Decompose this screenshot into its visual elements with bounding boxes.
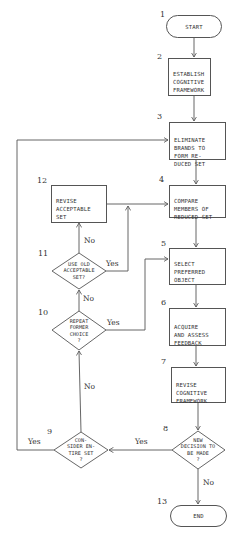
step-number-10: 10 — [38, 308, 48, 317]
step-number-1: 1 — [160, 10, 165, 19]
node-4-label: COMPARE MEMBERS OF REDUCED SET — [174, 198, 212, 220]
start-label: START — [185, 23, 202, 31]
node-3-label: ELIMINATE BRANDS TO FORM RE- DUCED SET — [174, 137, 205, 167]
revise-framework-box: REVISE COGNITIVE FRAMEWORK — [171, 367, 226, 403]
edge-label-9-no: No — [84, 382, 95, 391]
step-number-7: 7 — [161, 357, 166, 366]
step-number-5: 5 — [161, 239, 166, 248]
consider-entire-set-decision: CON- SIDER EN- TIRE SET ? — [67, 437, 95, 463]
step-number-2: 2 — [157, 52, 162, 61]
edge-label-8-no: No — [203, 478, 214, 487]
edge-label-8-yes: Yes — [135, 437, 148, 446]
edge-label-10-no: No — [83, 294, 94, 303]
node-12-label: REVISE ACCEPTABLE SET — [56, 198, 91, 220]
end-label: END — [193, 512, 203, 520]
step-number-9: 9 — [47, 427, 52, 436]
end-terminator: END — [170, 505, 227, 527]
start-terminator: START — [166, 15, 222, 38]
acquire-feedback-box: ACQUIRE AND ASSESS FEEDBACK — [169, 308, 226, 346]
edge-label-11-no: No — [84, 236, 95, 245]
step-number-12: 12 — [37, 176, 47, 185]
step-number-4: 4 — [159, 175, 164, 184]
new-decision-decision: NEW DECISION TO BE MADE ? — [181, 437, 215, 463]
compare-members-box: COMPARE MEMBERS OF REDUCED SET — [169, 185, 226, 218]
node-6-label: ACQUIRE AND ASSESS FEEDBACK — [174, 324, 209, 346]
edge-label-11-yes: Yes — [106, 259, 119, 268]
step-number-6: 6 — [161, 298, 166, 307]
step-number-13: 13 — [157, 497, 167, 506]
use-old-acceptable-set-decision: USE OLD ACCEPTABLE SET? — [63, 261, 94, 280]
node-5-label: SELECT PREFERRED OBJECT — [174, 261, 205, 283]
step-number-3: 3 — [157, 112, 162, 121]
edge-label-9-yes: Yes — [28, 437, 41, 446]
repeat-former-choice-decision: REPEAT FORMER CHOICE ? — [70, 318, 89, 344]
step-number-8: 8 — [163, 424, 168, 433]
select-preferred-box: SELECT PREFERRED OBJECT — [169, 248, 226, 285]
edge-label-10-yes: Yes — [107, 318, 120, 327]
revise-acceptable-set-box: REVISE ACCEPTABLE SET — [51, 185, 107, 223]
step-number-11: 11 — [38, 249, 48, 258]
node-2-label: ESTABLISH COGNITIVE FRAMEWORK — [173, 71, 204, 93]
node-7-label: REVISE COGNITIVE FRAMEWORK — [176, 382, 207, 404]
establish-framework-box: ESTABLISH COGNITIVE FRAMEWORK — [168, 58, 211, 96]
eliminate-brands-box: ELIMINATE BRANDS TO FORM RE- DUCED SET — [169, 122, 226, 160]
